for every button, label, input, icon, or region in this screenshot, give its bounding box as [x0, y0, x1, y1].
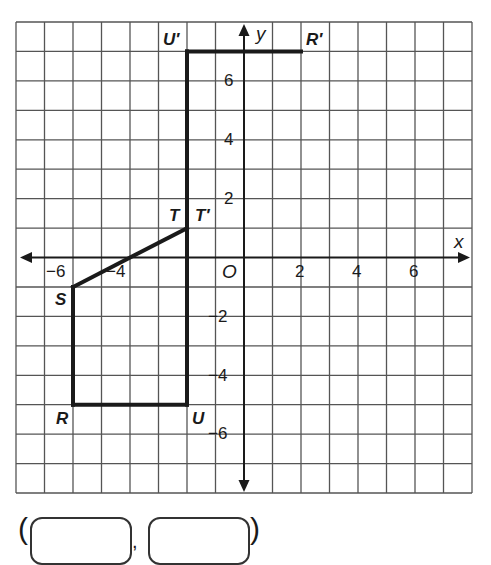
- y-axis-down-arrow-icon: [239, 480, 250, 492]
- y-axis-label: y: [256, 24, 266, 43]
- y-tick-minus-6: −6: [208, 425, 227, 442]
- y-tick-minus-2: −2: [208, 308, 227, 325]
- x-axis-label: x: [454, 232, 464, 251]
- y-tick-4: 4: [224, 131, 233, 148]
- label-T: T: [169, 207, 179, 224]
- x-tick-6: 6: [409, 263, 418, 280]
- x-axis-right-arrow-icon: [458, 252, 470, 263]
- label-R: R: [56, 410, 68, 427]
- y-answer-input[interactable]: [148, 517, 250, 565]
- open-paren: (: [18, 512, 28, 546]
- label-S: S: [55, 291, 66, 308]
- comma: ,: [132, 530, 138, 553]
- label-U: U: [192, 410, 204, 427]
- label-R-prime: R′: [306, 31, 322, 48]
- label-T-prime: T′: [195, 207, 209, 224]
- axes: [26, 30, 464, 486]
- y-axis-up-arrow-icon: [239, 24, 250, 36]
- y-tick-6: 6: [224, 72, 233, 89]
- y-tick-minus-4: −4: [208, 367, 227, 384]
- x-tick-minus-6: −6: [46, 263, 65, 280]
- y-tick-2: 2: [224, 190, 233, 207]
- x-axis-left-arrow-icon: [20, 252, 32, 263]
- x-tick-2: 2: [295, 263, 304, 280]
- label-U-prime: U′: [163, 31, 179, 48]
- close-paren: ): [250, 512, 260, 546]
- coordinate-answer: ( , ): [18, 512, 278, 552]
- x-tick-4: 4: [352, 263, 361, 280]
- x-answer-input[interactable]: [30, 517, 132, 565]
- x-tick-minus-4: −4: [106, 263, 125, 280]
- origin-label: O: [222, 262, 237, 281]
